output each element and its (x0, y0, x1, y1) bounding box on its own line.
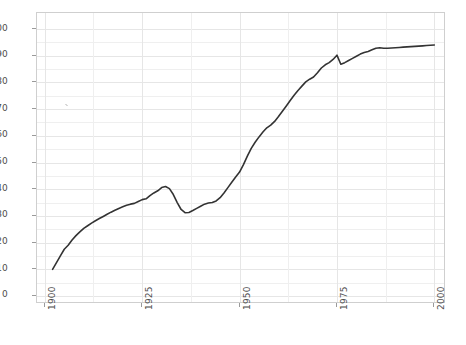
noise-speck (66, 105, 68, 106)
x-axis-tick-mark (44, 303, 45, 307)
line-series-layer (37, 13, 446, 304)
y-axis-tick-mark (32, 135, 36, 136)
y-axis-tick-label: 10 (0, 264, 8, 273)
y-axis-tick-mark (32, 268, 36, 269)
x-axis-tick-label: 1950 (243, 286, 252, 310)
y-axis-tick-label: 30 (0, 210, 8, 219)
x-axis-tick-label: 1925 (145, 286, 154, 310)
y-axis-tick-mark (32, 28, 36, 29)
y-axis-tick-label: 20 (0, 237, 8, 246)
line-series-path (53, 45, 435, 269)
y-axis-tick-label: 90 (0, 50, 8, 59)
y-axis-tick-label: 60 (0, 130, 8, 139)
y-axis-tick-mark (32, 242, 36, 243)
x-axis-tick-mark (141, 303, 142, 307)
y-axis-tick-label: 40 (0, 184, 8, 193)
y-axis-tick-label: 50 (0, 157, 8, 166)
x-axis-tick-mark (336, 303, 337, 307)
chart-root: 0102030405060708090100 19001925195019752… (0, 0, 466, 345)
y-axis-tick-mark (32, 81, 36, 82)
y-axis-tick-mark (32, 162, 36, 163)
y-axis-tick-mark (32, 108, 36, 109)
y-axis-tick-mark (32, 295, 36, 296)
x-axis-tick-label: 2000 (437, 286, 446, 310)
x-axis-tick-label: 1975 (340, 286, 349, 310)
y-axis-tick-mark (32, 188, 36, 189)
x-axis-tick-label: 1900 (48, 286, 57, 310)
y-axis-tick-label: 80 (0, 77, 8, 86)
y-axis-tick-label: 0 (0, 290, 8, 299)
plot-panel (36, 12, 445, 303)
y-axis-tick-mark (32, 215, 36, 216)
y-axis-tick-label: 100 (0, 24, 8, 33)
x-axis-tick-mark (433, 303, 434, 307)
y-axis-tick-label: 70 (0, 104, 8, 113)
y-axis-tick-mark (32, 55, 36, 56)
x-axis-tick-mark (239, 303, 240, 307)
